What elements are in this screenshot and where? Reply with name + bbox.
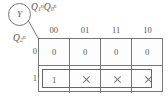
output-variable-circle: Y (8, 3, 31, 26)
kmap-cell: 0 (132, 39, 162, 65)
column-header: 10 (132, 25, 163, 36)
cross-icon (113, 76, 120, 83)
kmap-cell-dontcare (70, 66, 101, 93)
column-variable-sup-2: n (54, 3, 57, 9)
column-header: 00 (38, 25, 69, 36)
column-variable-base-2: Q (44, 2, 51, 12)
column-header: 11 (101, 25, 132, 36)
row-variable-base: Q (13, 33, 20, 43)
karnaugh-map-grid: 0 0 0 0 1 (38, 38, 163, 92)
kmap-cell-dontcare (132, 66, 162, 93)
row-variable-label: Q2n (13, 34, 26, 44)
kmap-cell: 0 (70, 39, 101, 65)
output-variable-label: Y (17, 10, 22, 19)
row-header: 0 (26, 38, 37, 65)
column-header-row: 00 01 11 10 (38, 25, 163, 36)
kmap-cell: 0 (101, 39, 132, 65)
table-row: 1 (39, 66, 162, 93)
row-header: 1 (26, 65, 37, 92)
column-header: 01 (69, 25, 100, 36)
column-variable-base-1: Q (31, 2, 38, 12)
kmap-cell-dontcare (101, 66, 132, 93)
karnaugh-map-figure: Y Q1nQ0n Q2n 00 01 11 10 0 1 0 0 0 0 1 (0, 0, 168, 102)
cross-icon (144, 76, 151, 83)
table-row: 0 0 0 0 (39, 39, 162, 66)
kmap-cell: 0 (39, 39, 70, 65)
row-header-column: 0 1 (26, 38, 37, 92)
column-variable-label: Q1nQ0n (31, 3, 57, 13)
cross-icon (82, 76, 89, 83)
kmap-cell: 1 (39, 66, 70, 93)
